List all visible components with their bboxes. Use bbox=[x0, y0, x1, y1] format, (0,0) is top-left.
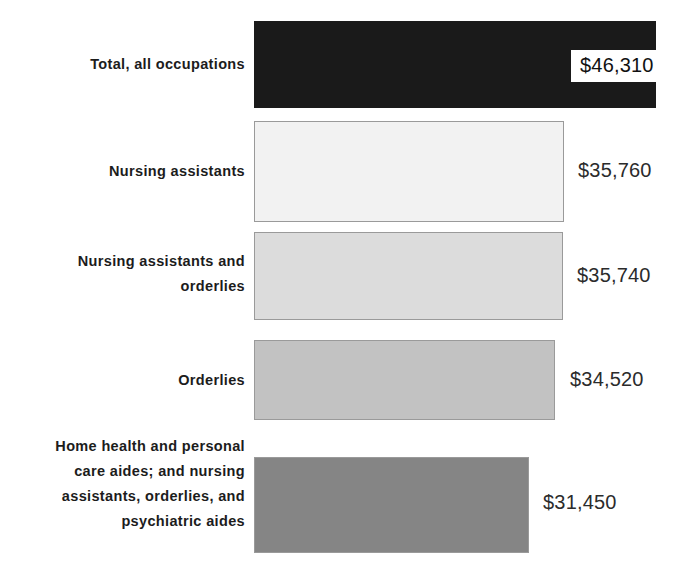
value-label: $46,310 bbox=[571, 50, 662, 82]
value-label: $35,740 bbox=[577, 264, 651, 287]
bar-orderlies bbox=[254, 340, 555, 420]
value-label: $31,450 bbox=[543, 491, 617, 514]
category-label: Orderlies bbox=[178, 368, 245, 393]
bar-chart: Total, all occupations $46,310 Nursing a… bbox=[0, 0, 681, 564]
category-label: Nursing assistants bbox=[109, 159, 245, 184]
value-label: $34,520 bbox=[570, 368, 644, 391]
bar-nursing-assistants-and-orderlies bbox=[254, 232, 563, 320]
category-label: Total, all occupations bbox=[90, 52, 245, 77]
bar-nursing-assistants bbox=[254, 121, 564, 222]
category-label: Nursing assistants and orderlies bbox=[78, 249, 245, 299]
bar-home-health-and-personal-care-aides bbox=[254, 457, 529, 553]
value-label: $35,760 bbox=[578, 159, 652, 182]
category-label: Home health and personal care aides; and… bbox=[55, 434, 245, 534]
